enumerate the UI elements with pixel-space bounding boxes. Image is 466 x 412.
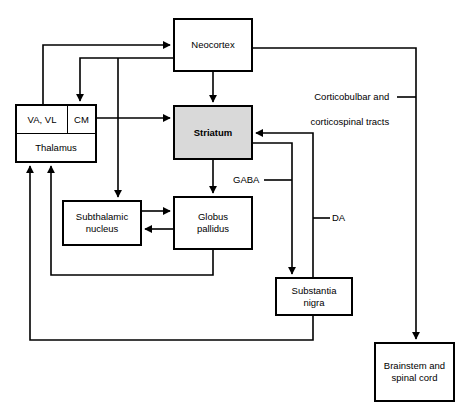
edge-thalamus-to-neocortex [43,45,170,104]
node-brainstem-spinal-cord[interactable]: Brainstem and spinal cord [374,342,455,402]
basal-ganglia-diagram: Neocortex VA, VL CM Thalamus Striatum Su… [0,0,466,412]
node-substantia-nigra-line1: Substantia [292,285,337,296]
node-globus-pallidus-line2: pallidus [197,223,229,234]
node-subthalamic-nucleus-line1: Subthalamic [76,211,128,222]
node-brainstem-spinal-cord-line1: Brainstem and [384,360,445,371]
node-brainstem-spinal-cord-label: Brainstem and spinal cord [384,360,445,383]
node-substantia-nigra[interactable]: Substantia nigra [275,277,353,316]
node-subthalamic-nucleus-line2: nucleus [86,223,119,234]
label-tracts-line1: Corticobulbar and [314,91,389,102]
node-striatum-label: Striatum [194,127,233,139]
node-thalamus-cm[interactable]: CM [68,106,95,133]
edge-neocortex-to-cm [80,58,173,101]
label-tracts-line2: corticospinal tracts [311,116,390,127]
node-thalamus-va-vl[interactable]: VA, VL [17,106,68,133]
node-subthalamic-nucleus[interactable]: Subthalamic nucleus [62,200,142,246]
edge-striatum-to-substantia-gaba [253,143,292,274]
node-neocortex[interactable]: Neocortex [173,18,253,72]
node-striatum[interactable]: Striatum [173,105,253,160]
edge-substantia-to-striatum-da [256,133,313,277]
node-subthalamic-nucleus-label: Subthalamic nucleus [76,211,128,234]
node-globus-pallidus-line1: Globus [198,211,228,222]
node-thalamus-va-vl-label: VA, VL [28,114,57,126]
node-substantia-nigra-label: Substantia nigra [292,285,337,308]
node-thalamus[interactable]: VA, VL CM Thalamus [15,104,97,163]
node-thalamus-body[interactable]: Thalamus [17,133,95,161]
label-corticobulbar-corticospinal-tracts: Corticobulbar and corticospinal tracts [300,79,389,141]
label-gaba: GABA [233,174,259,185]
node-thalamus-label: Thalamus [35,142,77,154]
node-neocortex-label: Neocortex [191,39,234,51]
label-da: DA [332,212,345,223]
node-globus-pallidus[interactable]: Globus pallidus [173,196,253,250]
node-thalamus-cm-label: CM [74,114,89,126]
thalamus-nuclei-row: VA, VL CM [17,106,95,133]
node-substantia-nigra-line2: nigra [303,297,324,308]
node-globus-pallidus-label: Globus pallidus [197,211,229,234]
edge-substantia-to-thalamus [30,166,313,340]
node-brainstem-spinal-cord-line2: spinal cord [392,372,438,383]
